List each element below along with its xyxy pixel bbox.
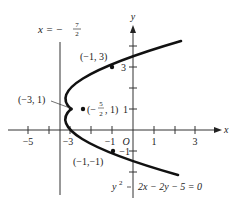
svg-text:7: 7 xyxy=(75,21,79,29)
svg-text:y: y xyxy=(111,181,117,192)
equation-label: y 2 2x − 2y − 5 = 0 xyxy=(111,179,202,192)
x-axis-arrow-icon xyxy=(214,127,222,133)
svg-text:(−: (− xyxy=(87,104,96,116)
svg-text:y: y xyxy=(130,11,136,22)
focus-marker xyxy=(81,107,85,111)
y-axis-arrow-icon xyxy=(130,25,136,33)
parabola-diagram: x = − 7 2 x −5 −3 −1 1 xyxy=(0,0,230,204)
svg-text:5: 5 xyxy=(99,100,103,108)
x-tick-label: −1 xyxy=(105,136,116,147)
focus-label: (− 5 2 , 1) xyxy=(87,100,118,118)
y-tick-label: 3 xyxy=(121,62,126,73)
svg-text:, 1): , 1) xyxy=(105,104,118,116)
svg-text:x = −: x = − xyxy=(37,23,63,35)
svg-text:2: 2 xyxy=(75,30,79,38)
y-tick-label: 1 xyxy=(123,104,128,115)
y-tick-label: −1 xyxy=(119,146,130,157)
svg-text:2x − 2y − 5 = 0: 2x − 2y − 5 = 0 xyxy=(138,181,202,192)
x-tick-label: −3 xyxy=(63,136,74,147)
point-top-marker xyxy=(110,65,114,69)
x-tick-label: 1 xyxy=(152,136,157,147)
svg-text:x: x xyxy=(223,124,229,135)
point-bottom-marker xyxy=(111,149,115,153)
point-top-label: (−1, 3) xyxy=(80,51,107,63)
svg-text:2: 2 xyxy=(99,110,103,118)
point-bottom-label: (−1,−1) xyxy=(73,156,103,168)
svg-text:2: 2 xyxy=(119,179,123,187)
point-vertex-label: (−3, 1) xyxy=(18,94,45,106)
directrix-label: x = − 7 2 xyxy=(37,21,81,38)
y-axis: y 3 1 −1 xyxy=(119,11,137,198)
x-tick-label: −5 xyxy=(23,136,34,147)
x-tick-label: 3 xyxy=(193,136,198,147)
x-axis: x −5 −3 −1 1 3 O xyxy=(8,124,229,147)
